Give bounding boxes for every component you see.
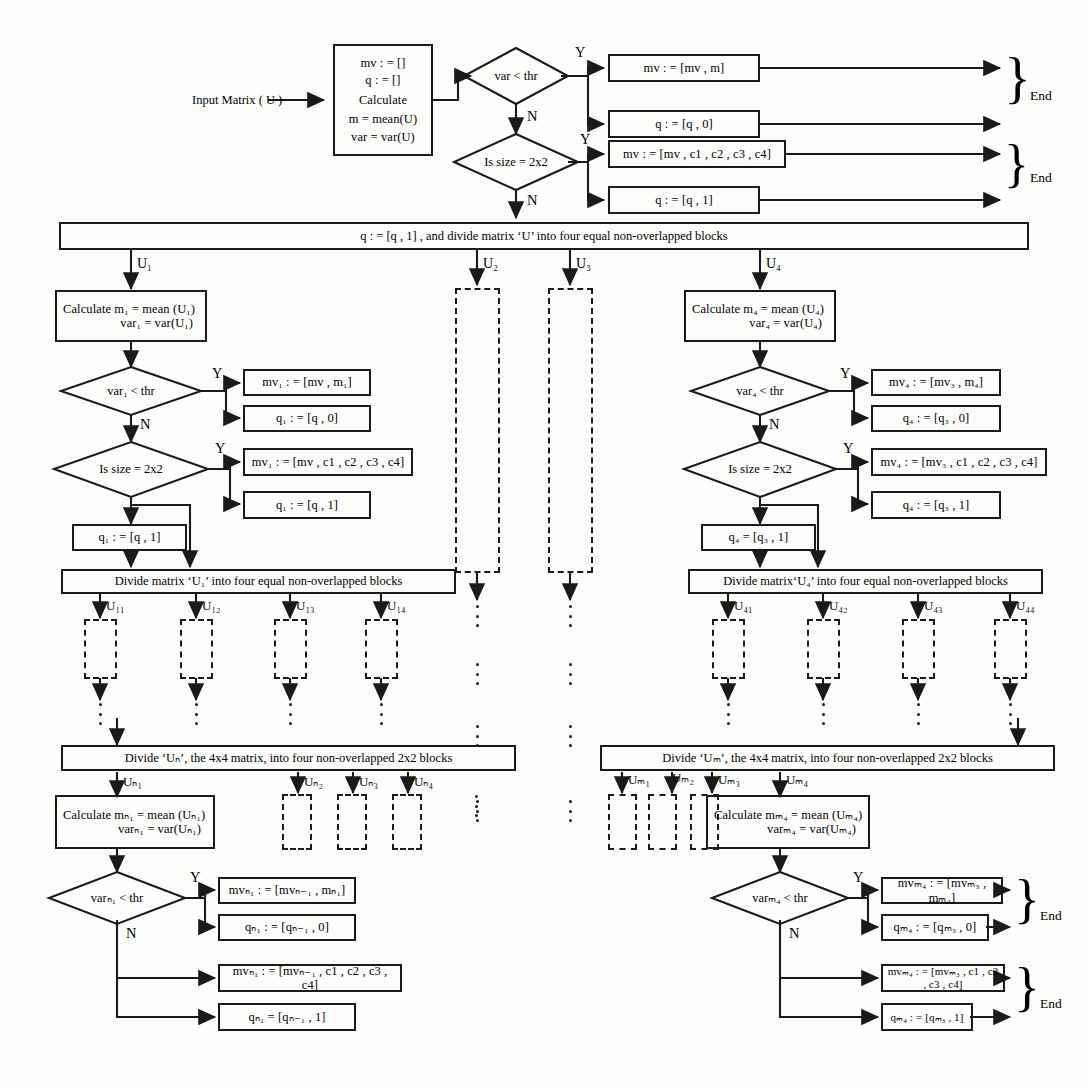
sub-label-um3: Uₘ₃	[718, 772, 740, 788]
decision-var1-label: var₁ < thr	[61, 367, 201, 415]
sub-label-um4: Uₘ₄	[786, 772, 808, 788]
mv1-yes-box: mv₁ : = [mv , m₁]	[243, 369, 371, 396]
no-label-top-2: N	[527, 192, 537, 209]
ellipsis-u11-col	[98, 703, 102, 725]
q4-final-box: q₄ = [q₃ , 1]	[701, 524, 816, 551]
q1-size-box: q₁ : = [q , 1]	[243, 491, 371, 519]
decision-size-2x2: Is size = 2x2	[454, 134, 578, 190]
qm4-no-text: qₘ₄ : = [qₘ₃ , 1]	[891, 1011, 964, 1024]
yes-label-left-2: Y	[215, 440, 225, 457]
end-label-4: End	[1040, 996, 1062, 1012]
q1-size-text: q₁ : = [q , 1]	[276, 498, 338, 512]
yes-label-right-2: Y	[843, 440, 853, 457]
ellipsis-u42-col	[821, 703, 825, 725]
ellipsis-u2-col-a	[475, 605, 479, 627]
mvm4-yes-text: mvₘ₄ : = [mvₘ₃ , mₘ₄]	[886, 876, 998, 905]
sub-label-u43: U₄₃	[924, 598, 942, 614]
sub-label-u13: U₁₃	[296, 598, 314, 614]
yes-label-bl: Y	[190, 869, 200, 886]
end-label-1: End	[1030, 88, 1052, 104]
calculate-u1-box: Calculate m₁ = mean (U₁) var₁ = var(U₁)	[55, 290, 207, 342]
calc-um4-line2: varₘ₄ = var(Uₘ₄)	[767, 822, 862, 836]
no-label-left-1: N	[140, 416, 150, 433]
ellipsis-u44-col	[1008, 703, 1012, 725]
decision-var-label: var < thr	[464, 48, 568, 104]
q1-final-text: q₁ : = [q , 1]	[98, 530, 160, 544]
placeholder-u12	[180, 619, 213, 679]
sub-label-u11: U₁₁	[106, 598, 124, 614]
calculate-un1-box: Calculate mₙ₁ = mean (Uₙ₁) varₙ₁ = var(U…	[55, 795, 215, 849]
divide-u1-bar: Divide matrix ‘U₁’ into four equal non-o…	[61, 569, 456, 594]
ellipsis-u3-col-a	[568, 605, 572, 627]
decision-var4-label: var₄ < thr	[691, 367, 829, 415]
mv1-size-text: mv₁ : = [mv , c1 , c2 , c3 , c4]	[252, 455, 404, 469]
q4-size-box: q₄ : = [q₃ , 1]	[871, 491, 1001, 519]
sub-label-u14: U₁₄	[387, 598, 405, 614]
mvm4-yes-box: mvₘ₄ : = [mvₘ₃ , mₘ₄]	[881, 877, 1003, 904]
yes-label-top-2: Y	[580, 131, 590, 148]
branch-label-u1: U₁	[137, 256, 152, 272]
split-bar-root: q : = [q , 1] , and divide matrix ‘U’ in…	[59, 222, 1029, 250]
mv-assign-size-box: mv : = [mv , c1 , c2 , c3 , c4]	[608, 140, 786, 168]
placeholder-u13	[274, 619, 307, 679]
ellipsis-u13-col	[288, 703, 292, 725]
branch-label-u3: U₃	[576, 256, 591, 272]
end-brace-1: }	[1004, 50, 1031, 106]
qn1-no-text: qₙ₁ = [qₙ₋₁ , 1]	[248, 1010, 325, 1024]
qn1-yes-box: qₙ₁ : = [qₙ₋₁ , 0]	[218, 914, 356, 941]
qm4-yes-box: qₘ₄ : = [qₘ₃ , 0]	[881, 914, 989, 941]
placeholder-u2	[455, 288, 500, 573]
mv-assign-size-text: mv : = [mv , c1 , c2 , c3 , c4]	[623, 147, 771, 161]
decision-size4-2x2: Is size = 2x2	[684, 442, 836, 497]
decision-varn1-lt-thr: varₙ₁ < thr	[49, 872, 185, 924]
qn1-yes-text: qₙ₁ : = [qₙ₋₁ , 0]	[245, 920, 329, 934]
qm4-no-box: qₘ₄ : = [qₘ₃ , 1]	[881, 1003, 973, 1031]
sub-label-un4: Uₙ₄	[414, 774, 433, 790]
decision-size1-2x2: Is size = 2x2	[54, 442, 208, 497]
calc-um4-line1: Calculate mₘ₄ = mean (Uₘ₄)	[714, 808, 862, 822]
divide-um-bar: Divide ‘Uₘ’, the 4x4 matrix, into four n…	[600, 745, 1055, 771]
calc-u4-line2: var₄ = var(U₄)	[749, 316, 828, 330]
ellipsis-u3-col-d	[568, 800, 572, 822]
ellipsis-u2-col-b	[475, 663, 479, 685]
q4-yes-text: q₄ : = [q₃ , 0]	[903, 411, 970, 425]
ellipsis-u12-col	[194, 703, 198, 725]
ellipsis-u2-col-c	[475, 725, 479, 747]
mv1-size-box: mv₁ : = [mv , c1 , c2 , c3 , c4]	[243, 448, 413, 476]
decision-varm4-lt-thr: varₘ₄ < thr	[712, 872, 848, 924]
calculate-u4-box: Calculate m₄ = mean (U₄) var₄ = var(U₄)	[684, 290, 836, 342]
no-label-top-1: N	[527, 108, 537, 125]
qm4-yes-text: qₘ₄ : = [qₘ₃ , 0]	[894, 920, 977, 934]
sub-label-um1: Uₘ₁	[628, 772, 650, 788]
sub-label-u44: U₄₄	[1016, 598, 1034, 614]
placeholder-un2	[282, 794, 312, 850]
placeholder-u3	[548, 288, 593, 573]
ellipsis-right-of-un4	[474, 795, 478, 817]
calc-un1-line2: varₙ₁ = var(Uₙ₁)	[118, 822, 207, 836]
mvn1-yes-text: mvₙ₁ : = [mvₙ₋₁ , mₙ₁]	[229, 883, 346, 897]
yes-label-br: Y	[853, 869, 863, 886]
mvm4-no-box: mvₘ₄ : = [mvₘ₃ , c1 , c2 , c3 , c4]	[881, 964, 1005, 992]
calc-u1-line2: var₁ = var(U₁)	[120, 316, 199, 330]
decision-var1-lt-thr: var₁ < thr	[61, 367, 201, 415]
mvm4-no-text: mvₘ₄ : = [mvₘ₃ , c1 , c2 , c3 , c4]	[886, 965, 1000, 990]
end-label-2: End	[1030, 170, 1052, 186]
mv-assign-yes-box: mv : = [mv , m]	[608, 54, 760, 82]
calc-root-line1: mv : = []	[360, 56, 405, 70]
q1-yes-box: q₁ : = [q , 0]	[243, 405, 371, 432]
calc-u1-line1: Calculate m₁ = mean (U₁)	[63, 302, 195, 316]
end-brace-2: }	[1004, 138, 1029, 190]
q4-size-text: q₄ : = [q₃ , 1]	[903, 498, 970, 512]
calculate-um4-box: Calculate mₘ₄ = mean (Uₘ₄) varₘ₄ = var(U…	[706, 795, 870, 849]
yes-label-left-1: Y	[212, 365, 222, 382]
yes-label-top-1: Y	[575, 44, 585, 61]
q1-yes-text: q₁ : = [q , 0]	[276, 411, 338, 425]
divide-un-text: Divide ‘Uₙ’, the 4x4 matrix, into four n…	[125, 750, 453, 766]
divide-u4-bar: Divide matrix‘U₄’ into four equal non-ov…	[688, 569, 1043, 594]
ellipsis-u3-col-c	[568, 725, 572, 747]
placeholder-um2	[648, 794, 677, 850]
calc-un1-line1: Calculate mₙ₁ = mean (Uₙ₁)	[63, 808, 205, 822]
placeholder-un3	[337, 794, 367, 850]
q-assign-yes-box: q : = [q , 0]	[608, 110, 760, 138]
mv4-size-text: mv₄ : = [mv₃ , c1 , c2 , c3 , c4]	[881, 455, 1038, 469]
